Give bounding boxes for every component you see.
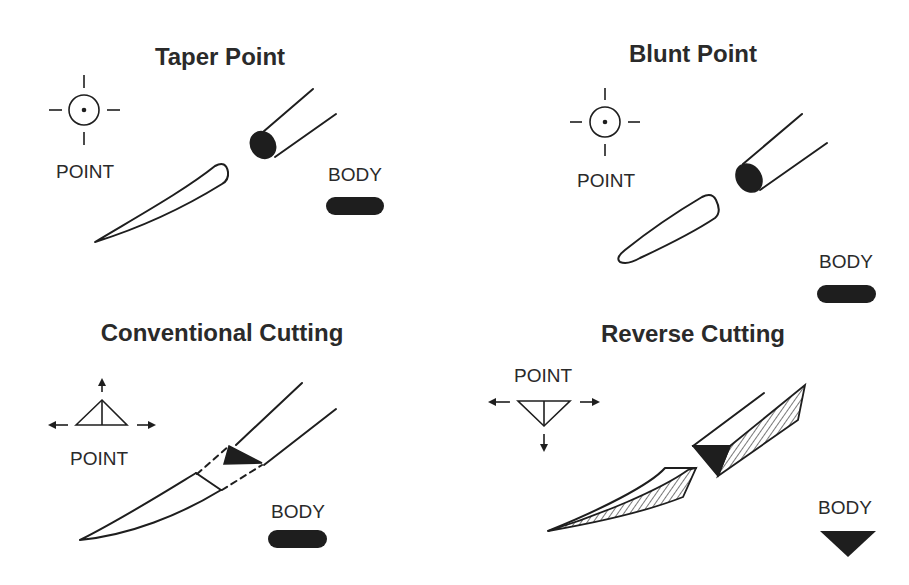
point-label: POINT (577, 170, 635, 191)
point-label: POINT (514, 365, 572, 386)
body-label: BODY (818, 497, 872, 518)
needle-reverse-cutting-body (693, 385, 805, 476)
upward-triangle-arrows-icon (50, 380, 154, 425)
body-label: BODY (271, 501, 325, 522)
panel-blunt-point: Blunt Point POINT BODY (570, 40, 876, 303)
taper-point-tip (95, 164, 228, 242)
oval-body-cross-section-icon (817, 285, 876, 303)
panel-title: Taper Point (155, 43, 285, 70)
panel-conventional-cutting: Conventional Cutting POINT BODY (50, 319, 343, 548)
oval-body-cross-section-icon (326, 197, 384, 215)
triangle-body-cross-section-icon (820, 531, 876, 557)
needle-body-cylinder (245, 89, 336, 163)
panel-reverse-cutting: Reverse Cutting POINT BODY (490, 320, 876, 557)
panel-title: Blunt Point (629, 40, 757, 67)
panel-title: Reverse Cutting (601, 320, 785, 347)
downward-triangle-arrows-icon (490, 401, 598, 450)
body-label: BODY (819, 251, 873, 272)
blunt-point-tip (618, 195, 718, 263)
needle-point-diagram: Taper Point POINT BODY Blunt Point (0, 0, 909, 585)
oval-body-cross-section-icon (268, 530, 327, 548)
crosshair-point-icon (49, 75, 120, 145)
point-label: POINT (56, 161, 114, 182)
needle-reverse-cutting-tip (548, 468, 696, 531)
panel-title: Conventional Cutting (101, 319, 344, 346)
point-label: POINT (70, 448, 128, 469)
crosshair-point-icon (570, 88, 640, 156)
panel-taper-point: Taper Point POINT BODY (49, 43, 384, 242)
needle-body-cylinder (731, 114, 827, 197)
body-label: BODY (328, 164, 382, 185)
